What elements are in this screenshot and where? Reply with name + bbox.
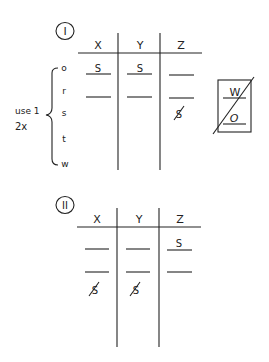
logic-puzzle-diagram: I X Y Z o r s t w use 1 2x S S S W O II … — [0, 0, 269, 362]
part2-struck-letter-x: S — [92, 285, 98, 296]
part1-col-y: Y — [136, 39, 144, 52]
part1-slot-x1-value: S — [95, 63, 101, 74]
row-letter-w: w — [61, 159, 68, 169]
part1-col-z: Z — [177, 39, 185, 52]
row-letter-t: t — [62, 134, 66, 144]
part2-label: II — [62, 200, 68, 211]
part2-col-x: X — [93, 213, 101, 226]
box-bottom-letter: O — [230, 112, 239, 125]
part1-struck-letter-z: S — [176, 109, 182, 120]
brace-note-line2: 2x — [15, 121, 27, 132]
part1-slot-y1-value: S — [137, 63, 143, 74]
row-letter-r: r — [62, 86, 66, 96]
part2-col-y: Y — [135, 213, 143, 226]
row-letter-s: s — [62, 108, 67, 118]
part1-label: I — [63, 25, 66, 38]
part2-slot-z1-value: S — [176, 238, 182, 249]
brace-icon — [46, 68, 58, 165]
part2-struck-letter-y: S — [133, 285, 139, 296]
part1-col-x: X — [94, 39, 102, 52]
brace-note-line1: use 1 — [15, 106, 40, 116]
box-top-letter: W — [230, 86, 241, 99]
part2-col-z: Z — [176, 213, 184, 226]
row-letter-o: o — [61, 63, 67, 73]
